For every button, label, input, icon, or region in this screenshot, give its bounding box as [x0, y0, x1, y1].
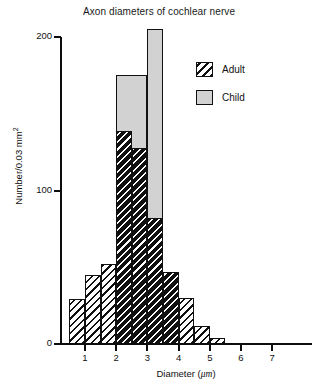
legend-item: Adult: [196, 62, 245, 77]
y-axis-tick: [54, 343, 61, 345]
x-axis-tick: [178, 345, 180, 351]
bar-adult: [179, 298, 195, 344]
plot-area: [0, 0, 318, 389]
legend-item: Child: [196, 90, 245, 105]
x-axis-line: [60, 343, 312, 345]
y-axis-tick-label: 200: [4, 30, 52, 41]
bar-adult: [101, 264, 117, 344]
bar-adult: [85, 275, 101, 344]
x-axis-tick: [271, 345, 273, 351]
x-axis-tick: [240, 345, 242, 351]
bar-adult: [69, 299, 85, 344]
x-axis-tick-label: 1: [75, 352, 95, 363]
y-axis-tick: [54, 36, 61, 38]
histogram-chart: Axon diameters of cochlear nerve 0100200…: [0, 0, 318, 389]
x-axis-tick: [209, 345, 211, 351]
x-axis-tick-label: 2: [106, 352, 126, 363]
x-axis-tick-label: 5: [200, 352, 220, 363]
bar-adult: [194, 326, 210, 344]
chart-legend: AdultChild: [196, 62, 245, 118]
x-axis-tick: [146, 345, 148, 351]
legend-swatch-child: [196, 90, 213, 105]
bar-adult: [147, 218, 163, 344]
bar-adult: [132, 148, 148, 344]
x-axis-tick-label: 7: [262, 352, 282, 363]
bar-adult: [116, 131, 132, 344]
x-axis-tick-label: 4: [169, 352, 189, 363]
x-axis-tick: [115, 345, 117, 351]
bar-adult: [163, 272, 179, 344]
x-axis-tick-label: 3: [137, 352, 157, 363]
x-axis-title: Diameter (μm): [60, 368, 312, 379]
legend-label: Child: [222, 92, 245, 103]
legend-swatch-adult: [196, 62, 213, 77]
y-axis-title-exponent: 2: [12, 127, 19, 131]
x-axis-tick: [84, 345, 86, 351]
x-axis-unit: μm: [201, 369, 213, 379]
y-axis-tick: [54, 190, 61, 192]
legend-label: Adult: [222, 64, 245, 75]
y-axis-tick-label: 0: [4, 337, 52, 348]
y-axis-title: Number/0.03 mm2: [12, 101, 24, 231]
x-axis-tick-label: 6: [231, 352, 251, 363]
